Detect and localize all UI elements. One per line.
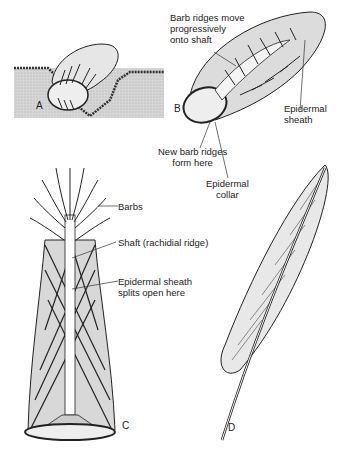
label-line: sheath [284, 114, 327, 125]
panel-label-b: B [174, 103, 181, 114]
label-sheath-splits: Epidermal sheath splits open here [118, 276, 192, 298]
label-shaft: Shaft (rachidial ridge) [118, 237, 208, 248]
label-line: onto shaft [170, 34, 244, 45]
label-line: progressively [170, 23, 244, 34]
panel-c-drawing [25, 168, 118, 440]
label-line: Epidermal sheath [118, 276, 192, 287]
label-line: Epidermal [206, 178, 249, 189]
panel-d-drawing [221, 165, 328, 440]
panel-label-a: A [36, 100, 43, 111]
label-new-barb-ridges: New barb ridges form here [158, 146, 227, 168]
feather-development-diagram [0, 0, 340, 457]
label-line: splits open here [118, 287, 192, 298]
label-line: Epidermal [284, 103, 327, 114]
label-barb-ridges-move: Barb ridges move progressively onto shaf… [170, 12, 244, 45]
label-epidermal-collar: Epidermal collar [206, 178, 249, 200]
panel-label-c: C [122, 420, 129, 431]
panel-label-d: D [228, 422, 235, 433]
label-epidermal-sheath: Epidermal sheath [284, 103, 327, 125]
label-barbs: Barbs [118, 201, 143, 212]
label-line: New barb ridges [158, 146, 227, 157]
label-line: form here [158, 157, 227, 168]
label-line: collar [206, 189, 249, 200]
label-line: Barb ridges move [170, 12, 244, 23]
